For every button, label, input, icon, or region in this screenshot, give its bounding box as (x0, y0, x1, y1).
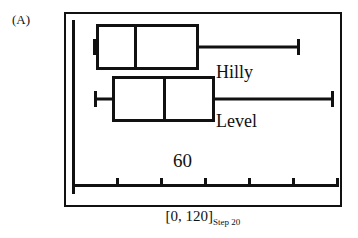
hilly-median-line (134, 27, 137, 67)
series-label-level: Level (216, 111, 257, 132)
x-axis-tick-80 (248, 178, 251, 185)
x-axis-tick-20 (116, 178, 119, 185)
axis-caption-range: [0, 120] (166, 208, 214, 224)
x-axis-tick-100 (292, 178, 295, 185)
boxplot-hilly (66, 24, 340, 70)
axis-caption-step: Step 20 (213, 217, 240, 227)
series-label-hilly: Hilly (216, 62, 253, 83)
level-lower-whisker-cap (94, 91, 97, 107)
axis-caption: [0, 120]Step 20 (64, 208, 342, 227)
x-axis-tick-120 (336, 178, 339, 185)
level-median-line (163, 79, 166, 119)
panel-label: (A) (12, 12, 30, 28)
x-axis-tick-40 (160, 178, 163, 185)
level-box (112, 76, 215, 122)
axis-midpoint-annotation: 60 (173, 150, 192, 172)
plot-frame: Hilly Level 60 (64, 12, 342, 207)
hilly-upper-whisker-cap (297, 39, 300, 55)
boxplot-figure-page: { "figure": { "panel_label": "(A)", "axi… (0, 0, 358, 238)
x-axis-tick-60 (204, 178, 207, 185)
x-axis-tick-0 (72, 178, 75, 185)
level-upper-whisker-cap (331, 91, 334, 107)
plot-area: Hilly Level 60 (66, 14, 340, 205)
hilly-box (96, 24, 199, 70)
boxplot-level (66, 76, 340, 122)
